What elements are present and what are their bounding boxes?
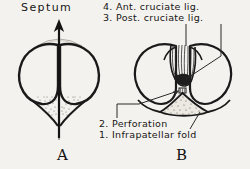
leader-line-ant-cruciate-diagonal [186, 56, 221, 79]
panel-a-right-condyle [60, 44, 99, 104]
figure-caption-b: B [176, 146, 187, 164]
leader-line-perforation [117, 104, 139, 118]
label-perforation: 2. Perforation [99, 119, 168, 129]
panel-b-drawing [117, 24, 231, 129]
panel-b-left-plateau [138, 100, 160, 112]
label-post-cruciate-lig: 3. Post. cruciate lig. [103, 13, 203, 23]
anatomy-figure-page: Septum 4. Ant. cruciate lig. 3. Post. cr… [0, 0, 250, 169]
label-septum: Septum [21, 2, 72, 13]
panel-a-drawing [19, 19, 99, 140]
panel-a-left-condyle [19, 44, 58, 104]
figure-drawing [0, 0, 250, 169]
label-infrapatellar-fold: 1. Infrapatellar fold [99, 130, 197, 140]
figure-caption-a: A [57, 146, 68, 164]
label-ant-cruciate-lig: 4. Ant. cruciate lig. [103, 2, 199, 12]
